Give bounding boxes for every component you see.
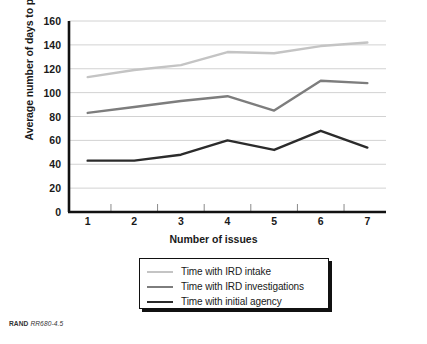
legend-item: Time with IRD intake (147, 264, 328, 279)
source-brand: RAND (9, 320, 28, 327)
y-axis-tick-label: 60 (31, 135, 61, 145)
y-axis-tick-label: 100 (31, 88, 61, 98)
x-axis-tick-label: 5 (264, 215, 284, 227)
legend-swatch-ird-investigations (147, 286, 173, 288)
x-axis-title: Number of issues (0, 233, 427, 245)
series-line (88, 42, 368, 77)
legend-swatch-initial-agency (147, 301, 173, 303)
chart-figure: Average number of days to process 020406… (0, 0, 427, 344)
legend-item: Time with IRD investigations (147, 279, 328, 294)
data-series-group (88, 42, 368, 160)
source-code: RR680-4.5 (30, 320, 63, 327)
y-axis-tick-label: 140 (31, 40, 61, 50)
legend-label: Time with IRD investigations (181, 281, 304, 292)
y-axis-tick-label: 160 (31, 16, 61, 26)
x-axis-tick-label: 4 (218, 215, 238, 227)
legend-label: Time with IRD intake (181, 266, 271, 277)
gridlines (69, 21, 386, 188)
series-line (88, 81, 368, 113)
legend-item: Time with initial agency (147, 294, 328, 309)
source-note: RAND RR680-4.5 (9, 320, 63, 327)
x-axis-tick-label: 3 (171, 215, 191, 227)
x-axis-tick-label: 2 (124, 215, 144, 227)
x-axis-tick-label: 1 (78, 215, 98, 227)
chart-legend: Time with IRD intake Time with IRD inves… (139, 258, 329, 309)
y-axis-tick-label: 0 (31, 207, 61, 217)
series-line (88, 131, 368, 161)
y-axis-tick-label: 80 (31, 112, 61, 122)
legend-label: Time with initial agency (181, 296, 282, 307)
y-axis-tick-label: 20 (31, 183, 61, 193)
y-axis-tick-label: 40 (31, 159, 61, 169)
x-axis-tick-label: 6 (311, 215, 331, 227)
x-axis-tick-label: 7 (357, 215, 377, 227)
legend-swatch-ird-intake (147, 271, 173, 273)
y-axis-tick-label: 120 (31, 64, 61, 74)
